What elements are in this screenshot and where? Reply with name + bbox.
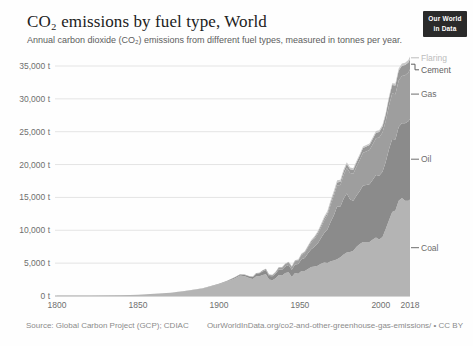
- y-axis-tick-label: 15,000 t: [19, 192, 50, 202]
- y-axis-tick-label: 25,000 t: [19, 127, 50, 137]
- source-note: Source: Global Carbon Project (GCP); CDI…: [26, 321, 189, 330]
- y-axis-tick-label: 20,000 t: [19, 160, 50, 170]
- legend-label-coal[interactable]: Coal: [421, 243, 439, 253]
- legend-label-oil[interactable]: Oil: [421, 154, 432, 164]
- stacked-area-chart: 0 t5,000 t10,000 t15,000 t20,000 t25,000…: [0, 0, 473, 346]
- x-axis-tick-label: 2000: [371, 300, 390, 310]
- legend-label-gas[interactable]: Gas: [421, 89, 437, 99]
- x-axis-tick-label: 1900: [209, 300, 228, 310]
- x-axis-tick-label: 1950: [290, 300, 309, 310]
- x-axis-tick-label: 1800: [48, 300, 67, 310]
- legend-connector-cement: [411, 64, 419, 70]
- y-axis-tick-label: 30,000 t: [19, 94, 50, 104]
- legend-label-flaring[interactable]: Flaring: [421, 53, 447, 63]
- chart-canvas: CO₂ emissions by fuel type, World Annual…: [0, 0, 473, 346]
- y-axis-tick-label: 10,000 t: [19, 225, 50, 235]
- x-axis-tick-label: 2018: [401, 300, 420, 310]
- x-axis-tick-label: 1850: [129, 300, 148, 310]
- y-axis-tick-label: 35,000 t: [19, 61, 50, 71]
- license-link[interactable]: OurWorldInData.org/co2-and-other-greenho…: [207, 321, 463, 330]
- y-axis-tick-label: 5,000 t: [24, 258, 51, 268]
- legend-label-cement[interactable]: Cement: [421, 65, 451, 75]
